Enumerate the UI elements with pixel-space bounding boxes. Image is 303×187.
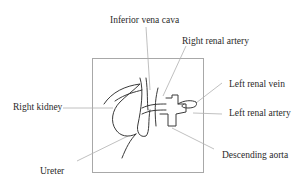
leader-ureter (77, 136, 128, 161)
leader-right-renal-artery (163, 46, 186, 96)
leader-left-renal-vein (196, 83, 222, 103)
label-right-renal-artery: Right renal artery (182, 36, 249, 47)
renal-vessel-band (142, 104, 166, 114)
label-descending-aorta: Descending aorta (222, 150, 288, 161)
label-right-kidney: Right kidney (13, 102, 62, 113)
label-inferior-vena-cava: Inferior vena cava (110, 15, 179, 26)
label-ureter: Ureter (40, 166, 64, 177)
label-left-renal-artery: Left renal artery (229, 108, 291, 119)
diagram-frame (93, 59, 204, 173)
ivc-right-wall (146, 78, 148, 110)
leader-descending-aorta (172, 128, 214, 149)
kidney-inner (115, 90, 142, 101)
label-left-renal-vein: Left renal vein (229, 79, 285, 90)
leader-left-renal-artery (193, 113, 222, 114)
right-renal-artery-shape (155, 88, 158, 126)
